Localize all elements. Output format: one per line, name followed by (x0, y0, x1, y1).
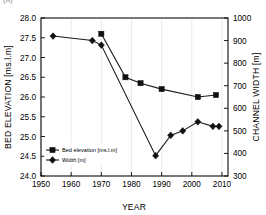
y2-tick-label: 700 (233, 82, 247, 91)
data-series (50, 31, 222, 159)
y2-tick-label: 800 (233, 59, 247, 68)
marker-diamond (216, 123, 222, 130)
y2-tick-label: 900 (233, 37, 247, 46)
figure-panel: (a) 24.024.525.025.526.026.527.027.528.0… (0, 0, 266, 215)
y2-axis-tick-labels: 3004005006007008009001000 (233, 14, 252, 181)
marker-square (123, 75, 128, 80)
y-axis-title: BED ELEVATION [ms.l.m] (3, 45, 13, 149)
y2-tick-label: 500 (233, 127, 247, 136)
y2-tick-label: 1000 (233, 14, 252, 23)
y-axis-tick-labels: 24.024.525.025.526.026.527.027.528.0 (20, 14, 36, 181)
x-tick-label: 1970 (92, 180, 111, 189)
x-tick-label: 1960 (62, 180, 81, 189)
marker-diamond (195, 118, 201, 125)
x-tick-label: 1990 (153, 180, 172, 189)
series-line (101, 34, 216, 97)
marker-square (138, 81, 143, 86)
x-tick-label: 2000 (183, 180, 202, 189)
legend-label: Width [m] (62, 157, 86, 163)
series-1 (99, 31, 219, 99)
legend-label: Bed elevation [ms.l.m] (62, 147, 117, 153)
marker-diamond (89, 37, 95, 44)
y-tick-label: 24.5 (20, 152, 36, 161)
chart-legend: Bed elevation [ms.l.m]Width [m] (44, 143, 120, 165)
y2-tick-label: 600 (233, 104, 247, 113)
marker-diamond (180, 127, 186, 134)
y-tick-label: 26.0 (20, 93, 36, 102)
marker-square (213, 92, 218, 97)
x-tick-label: 1950 (32, 180, 51, 189)
y2-tick-label: 400 (233, 149, 247, 158)
x-axis-title: YEAR (122, 202, 146, 212)
y2-axis-title: CHANNEL WIDTH [m] (251, 52, 261, 141)
y-tick-label: 25.5 (20, 113, 36, 122)
marker-square (195, 94, 200, 99)
y-tick-label: 26.5 (20, 73, 36, 82)
marker-square (99, 31, 104, 36)
y2-tick-label: 300 (233, 172, 247, 181)
marker-square (159, 87, 164, 92)
y-tick-label: 27.0 (20, 54, 36, 63)
x-axis-tick-labels: 1950196019701980199020002010 (32, 180, 232, 189)
y-tick-label: 28.0 (20, 14, 36, 23)
marker-diamond (210, 123, 216, 130)
marker-diamond (98, 42, 104, 49)
marker-square (50, 147, 55, 152)
y-tick-label: 25.0 (20, 133, 36, 142)
y-tick-label: 27.5 (20, 34, 36, 43)
chart-canvas: 24.024.525.025.526.026.527.027.528.0 300… (0, 0, 266, 215)
panel-label: (a) (3, 0, 13, 4)
marker-diamond (50, 33, 56, 40)
x-tick-label: 1980 (122, 180, 141, 189)
x-tick-label: 2010 (213, 180, 232, 189)
